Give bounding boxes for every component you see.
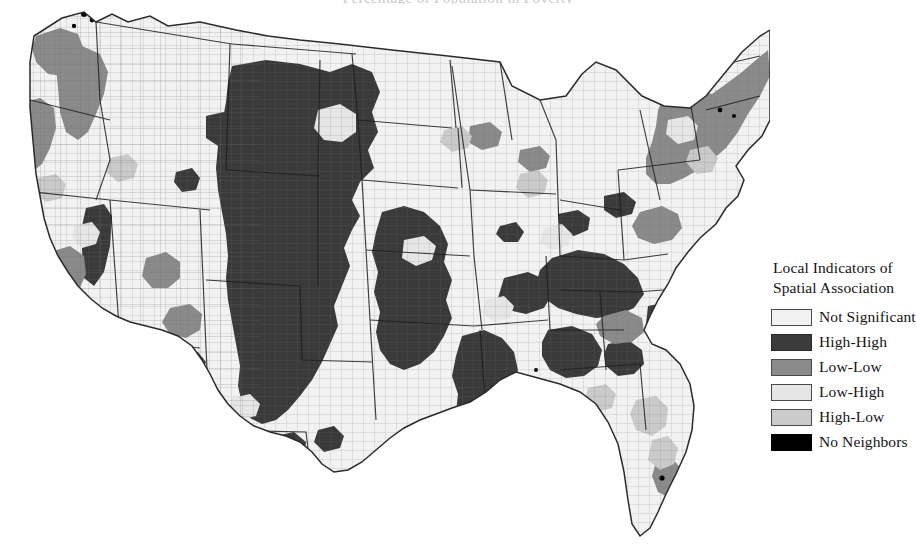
legend-swatch-not-significant bbox=[771, 309, 812, 326]
us-county-choropleth-map bbox=[0, 0, 770, 556]
hh-nevada-reservation bbox=[90, 314, 114, 362]
hh-four-corners bbox=[150, 348, 180, 374]
legend-swatch-low-high bbox=[771, 384, 812, 401]
legend-swatch-low-low bbox=[771, 359, 812, 376]
ll-south-texas bbox=[258, 440, 314, 508]
nn-san-francisco bbox=[28, 256, 32, 260]
legend-swatch-high-low bbox=[771, 409, 812, 426]
legend-swatch-high-high bbox=[771, 334, 812, 351]
legend-label-high-high: High-High bbox=[819, 333, 887, 351]
legend-label-not-significant: Not Significant bbox=[819, 308, 916, 326]
legend-swatch-no-neighbors bbox=[771, 434, 812, 451]
legend-item-low-low[interactable]: Low-Low bbox=[771, 355, 916, 380]
legend-label-no-neighbors: No Neighbors bbox=[819, 433, 908, 451]
legend-label-high-low: High-Low bbox=[819, 408, 884, 426]
legend-item-no-neighbors[interactable]: No Neighbors bbox=[771, 430, 916, 455]
lisa-cluster-figure: Percentage of Population in Poverty bbox=[0, 0, 916, 556]
legend-label-low-low: Low-Low bbox=[819, 358, 882, 376]
legend-label-low-high: Low-High bbox=[819, 383, 884, 401]
hl-arizona-south bbox=[180, 388, 212, 416]
map-svg bbox=[0, 0, 770, 556]
map-legend: Local Indicators of Spatial Association … bbox=[771, 258, 916, 455]
legend-item-low-high[interactable]: Low-High bbox=[771, 380, 916, 405]
legend-title: Local Indicators of Spatial Association bbox=[773, 258, 916, 298]
legend-item-not-significant[interactable]: Not Significant bbox=[771, 305, 916, 330]
county-grid-texture-west bbox=[0, 0, 260, 556]
legend-item-high-high[interactable]: High-High bbox=[771, 330, 916, 355]
nn-florida-keys bbox=[670, 498, 674, 502]
legend-item-high-low[interactable]: High-Low bbox=[771, 405, 916, 430]
ll-northern-california bbox=[0, 212, 48, 322]
